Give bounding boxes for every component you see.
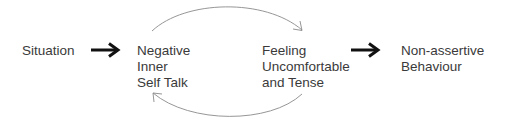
curved-arrow-icon	[153, 93, 302, 116]
bold-arrow-icon	[351, 44, 378, 57]
diagram-edges	[0, 0, 509, 134]
bold-arrow-icon	[91, 44, 118, 57]
curved-arrow-icon	[152, 7, 302, 31]
